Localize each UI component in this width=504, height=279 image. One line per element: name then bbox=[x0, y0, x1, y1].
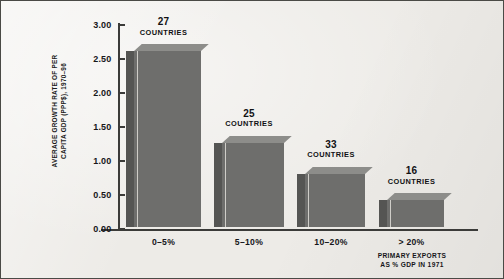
bar-side-face bbox=[126, 51, 134, 227]
bar-country-count: 25 bbox=[202, 109, 296, 120]
bar-side-face bbox=[214, 143, 222, 227]
bar-country-count: 27 bbox=[114, 17, 213, 28]
bar-top-face bbox=[387, 193, 452, 200]
x-axis-line bbox=[101, 229, 478, 231]
y-tick-2.00: 2.00 bbox=[63, 88, 125, 99]
chart-figure: AVERAGE GROWTH RATE OF PER CAPITA GDP (P… bbox=[0, 0, 504, 279]
y-tick-label: 0.00 bbox=[63, 224, 117, 234]
y-tick-mark bbox=[118, 126, 125, 128]
y-tick-0.00: 0.00 bbox=[63, 224, 125, 235]
bar-country-label: COUNTRIES bbox=[202, 119, 296, 130]
x-category-label-4: > 20% bbox=[361, 237, 462, 247]
bar-top-face bbox=[305, 167, 373, 174]
bar-front-face bbox=[387, 200, 444, 227]
bar-front-face bbox=[305, 174, 365, 227]
y-axis-title: AVERAGE GROWTH RATE OF PER CAPITA GDP (P… bbox=[48, 13, 70, 209]
y-tick-2.50: 2.50 bbox=[63, 54, 125, 65]
bar-3 bbox=[297, 168, 365, 227]
y-tick-label: 1.50 bbox=[63, 122, 117, 132]
bar-annotation-1: 27COUNTRIES bbox=[114, 17, 213, 38]
bar-annotation-2: 25COUNTRIES bbox=[202, 109, 296, 130]
bar-highlight-stripe bbox=[225, 143, 227, 227]
bar-highlight-stripe bbox=[137, 51, 139, 227]
bar-country-label: COUNTRIES bbox=[285, 150, 377, 161]
bar-country-count: 16 bbox=[367, 166, 456, 177]
y-tick-mark bbox=[118, 58, 125, 60]
y-tick-mark bbox=[118, 160, 125, 162]
y-tick-1.00: 1.00 bbox=[63, 156, 125, 167]
bar-annotation-4: 16COUNTRIES bbox=[367, 166, 456, 187]
bar-highlight-stripe bbox=[390, 200, 392, 227]
y-tick-label: 1.00 bbox=[63, 156, 117, 166]
bar-country-label: COUNTRIES bbox=[114, 28, 213, 39]
y-tick-label: 0.50 bbox=[63, 190, 117, 200]
bar-4 bbox=[379, 194, 444, 227]
y-tick-label: 3.00 bbox=[63, 20, 117, 30]
y-tick-label: 2.00 bbox=[63, 88, 117, 98]
y-tick-mark bbox=[118, 92, 125, 94]
y-tick-label: 2.50 bbox=[63, 54, 117, 64]
bar-front-face bbox=[134, 51, 201, 227]
x-axis-title: PRIMARY EXPORTS AS % GDP IN 1971 bbox=[353, 251, 471, 269]
y-tick-1.50: 1.50 bbox=[63, 122, 125, 133]
bar-2 bbox=[214, 137, 284, 227]
bar-highlight-stripe bbox=[308, 174, 310, 227]
bar-country-count: 33 bbox=[285, 140, 377, 151]
bar-country-label: COUNTRIES bbox=[367, 177, 456, 188]
bar-side-face bbox=[297, 174, 305, 227]
y-tick-0.50: 0.50 bbox=[63, 190, 125, 201]
bar-1 bbox=[126, 45, 201, 227]
bar-annotation-3: 33COUNTRIES bbox=[285, 140, 377, 161]
bar-side-face bbox=[379, 200, 387, 227]
bar-top-face bbox=[134, 44, 209, 51]
bar-front-face bbox=[222, 143, 284, 227]
y-tick-mark bbox=[118, 194, 125, 196]
y-tick-mark bbox=[118, 228, 125, 230]
bar-top-face bbox=[222, 136, 292, 143]
